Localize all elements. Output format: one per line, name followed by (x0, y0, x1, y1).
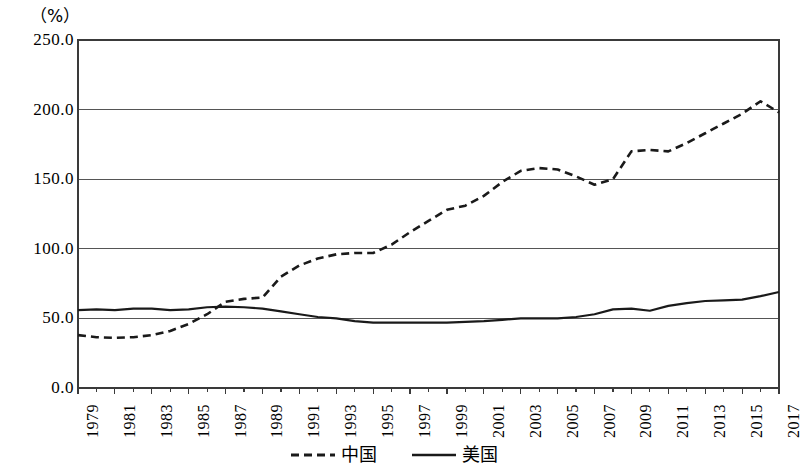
series-line (78, 101, 779, 338)
y-axis-tick-label: 0.0 (4, 379, 74, 396)
x-axis-tick-label: 1991 (306, 404, 322, 438)
gridlines (78, 110, 779, 319)
x-axis-tick-label: 1995 (380, 404, 396, 438)
x-axis-tick-label: 1979 (85, 404, 101, 438)
legend-entry: 中国 (290, 446, 377, 464)
y-axis-tick-label: 50.0 (4, 309, 74, 326)
legend-label: 中国 (341, 446, 377, 464)
x-axis-tick-label: 1985 (196, 404, 212, 438)
x-axis-tick-label: 2001 (491, 404, 507, 438)
y-axis-tick-label: 100.0 (4, 240, 74, 257)
x-axis-tick-marks (78, 388, 779, 394)
legend-dashed-line-icon (290, 450, 336, 460)
x-axis-tick-label: 2011 (675, 405, 691, 438)
x-axis-tick-label: 1993 (343, 404, 359, 438)
x-axis-tick-label: 2013 (712, 404, 728, 438)
y-axis-tick-label: 150.0 (4, 170, 74, 187)
x-axis-tick-label: 1997 (417, 404, 433, 438)
legend-entry: 美国 (411, 446, 498, 464)
x-axis-tick-label: 2009 (638, 404, 654, 438)
y-axis-tick-label: 200.0 (4, 101, 74, 118)
x-axis-tick-label: 2005 (565, 404, 581, 438)
x-axis-tick-label: 1999 (454, 404, 470, 438)
x-axis-tick-label: 2017 (786, 404, 802, 438)
x-axis-tick-label: 2003 (528, 404, 544, 438)
series-lines (78, 101, 779, 338)
x-axis-tick-label: 1987 (233, 404, 249, 438)
x-axis-tick-label: 2015 (749, 404, 765, 438)
x-axis-tick-label: 1981 (122, 404, 138, 438)
legend-label: 美国 (462, 446, 498, 464)
y-axis-tick-label: 250.0 (4, 31, 74, 48)
plot-frame (78, 40, 779, 388)
legend-solid-line-icon (411, 450, 457, 460)
x-axis-tick-label: 1989 (269, 404, 285, 438)
chart-legend: 中国美国 (0, 441, 787, 469)
x-axis-tick-label: 2007 (602, 404, 618, 438)
x-axis-tick-label: 1983 (159, 404, 175, 438)
